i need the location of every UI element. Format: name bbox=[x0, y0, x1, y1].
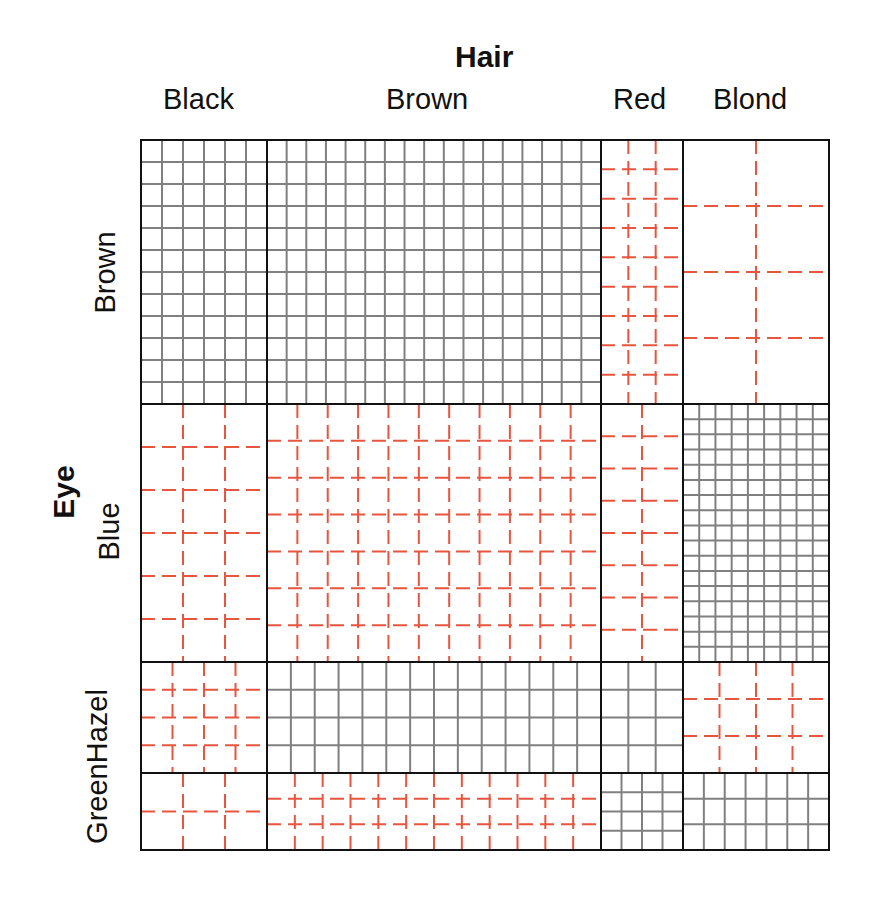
mosaic-cell bbox=[267, 404, 601, 662]
mosaic-cell bbox=[683, 404, 829, 662]
mosaic-cell bbox=[683, 773, 829, 850]
mosaic-cell bbox=[601, 140, 683, 404]
mosaic-plot bbox=[0, 0, 880, 903]
